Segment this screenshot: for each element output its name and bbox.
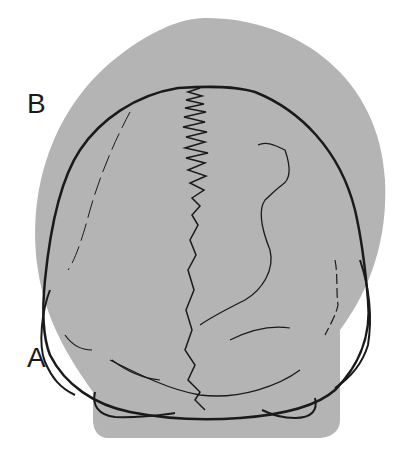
skull-drawing [0, 0, 404, 461]
skull-diagram: B A [0, 0, 404, 461]
shaded-region-b [35, 18, 385, 438]
label-a: A [27, 344, 46, 372]
label-b: B [27, 90, 46, 118]
